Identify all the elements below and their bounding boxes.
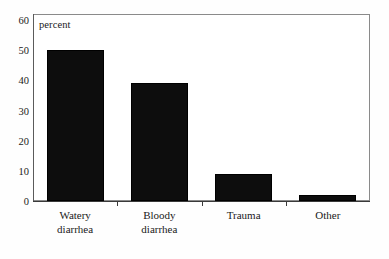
x-tick-mark bbox=[286, 202, 287, 206]
x-category-label: Waterydiarrhea bbox=[33, 209, 117, 236]
bar bbox=[47, 50, 104, 201]
x-category-label-line2: diarrhea bbox=[33, 223, 117, 237]
bar-chart-figure: percent 0102030405060 WaterydiarrheaBloo… bbox=[0, 0, 389, 259]
x-category-label-line1: Trauma bbox=[227, 209, 261, 221]
x-category-label-line1: Bloody bbox=[143, 209, 175, 221]
x-tick-mark bbox=[202, 202, 203, 206]
bar bbox=[299, 195, 356, 201]
x-category-label-line1: Other bbox=[315, 209, 340, 221]
x-category-label-line2: diarrhea bbox=[117, 223, 201, 237]
bars-layer: WaterydiarrheaBloodydiarrheaTraumaOther bbox=[0, 0, 389, 259]
x-category-label: Bloodydiarrhea bbox=[117, 209, 201, 236]
bar bbox=[131, 83, 188, 201]
x-category-label-line1: Watery bbox=[59, 209, 91, 221]
x-tick-mark bbox=[117, 202, 118, 206]
x-category-label: Other bbox=[286, 209, 370, 223]
bar bbox=[215, 174, 272, 201]
x-category-label: Trauma bbox=[202, 209, 286, 223]
